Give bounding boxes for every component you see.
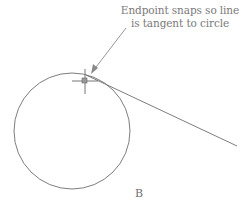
snap-marker-icon	[82, 78, 87, 83]
callout-arrow-icon	[91, 28, 126, 74]
callout-line-2: is tangent to circle	[112, 17, 248, 30]
diagram-canvas	[0, 0, 250, 212]
figure-label: B	[135, 187, 143, 200]
tangent-line	[86, 75, 237, 146]
callout-text: Endpoint snaps so line is tangent to cir…	[112, 4, 248, 30]
callout-line-1: Endpoint snaps so line	[112, 4, 248, 17]
circle	[14, 73, 130, 189]
